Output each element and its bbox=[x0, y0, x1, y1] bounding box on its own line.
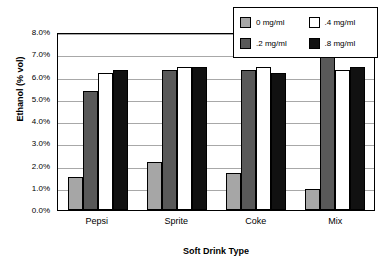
y-tick-label: 3.0% bbox=[6, 140, 50, 148]
legend-item[interactable]: 0 mg/ml bbox=[240, 13, 303, 31]
plot-area bbox=[57, 33, 375, 211]
x-tick-label: Pepsi bbox=[57, 216, 137, 226]
y-tick-label: 0.0% bbox=[6, 207, 50, 215]
legend-item[interactable]: .2 mg/ml bbox=[240, 34, 303, 52]
bar[interactable] bbox=[147, 162, 162, 210]
bar[interactable] bbox=[256, 67, 271, 211]
bar[interactable] bbox=[305, 189, 320, 210]
legend-swatch-icon bbox=[240, 17, 251, 28]
x-tick-label: Coke bbox=[216, 216, 296, 226]
bar[interactable] bbox=[226, 173, 241, 210]
x-axis-title: Soft Drink Type bbox=[57, 246, 375, 256]
bar[interactable] bbox=[83, 91, 98, 210]
legend-swatch-icon bbox=[309, 38, 320, 49]
bar-group bbox=[137, 34, 216, 210]
y-tick-label: 4.0% bbox=[6, 118, 50, 126]
y-tick-label: 1.0% bbox=[6, 185, 50, 193]
bar[interactable] bbox=[98, 73, 113, 210]
x-tick-label: Mix bbox=[296, 216, 376, 226]
bar[interactable] bbox=[241, 70, 256, 210]
bar[interactable] bbox=[68, 177, 83, 210]
bar-group bbox=[295, 34, 374, 210]
bar[interactable] bbox=[350, 67, 365, 211]
bar[interactable] bbox=[320, 54, 335, 210]
legend-item[interactable]: .4 mg/ml bbox=[309, 13, 372, 31]
bar[interactable] bbox=[192, 67, 207, 211]
bar-group bbox=[58, 34, 137, 210]
y-tick-label: 6.0% bbox=[6, 74, 50, 82]
y-tick-label: 8.0% bbox=[6, 29, 50, 37]
legend-swatch-icon bbox=[240, 38, 251, 49]
legend-item[interactable]: .8 mg/ml bbox=[309, 34, 372, 52]
bar[interactable] bbox=[271, 73, 286, 210]
legend-label: .2 mg/ml bbox=[256, 39, 287, 48]
bar-group bbox=[216, 34, 295, 210]
chart-legend: 0 mg/ml.4 mg/ml.2 mg/ml.8 mg/ml bbox=[233, 7, 378, 58]
legend-label: 0 mg/ml bbox=[256, 18, 284, 27]
y-tick-label: 2.0% bbox=[6, 163, 50, 171]
y-axis-title: Ethanol (% vol) bbox=[15, 24, 25, 154]
y-tick-label: 7.0% bbox=[6, 51, 50, 59]
bar[interactable] bbox=[113, 70, 128, 210]
bar-groups bbox=[58, 34, 374, 210]
legend-label: .4 mg/ml bbox=[325, 18, 356, 27]
bar[interactable] bbox=[335, 70, 350, 210]
bar-chart: Ethanol (% vol) 8.0%7.0%6.0%5.0%4.0%3.0%… bbox=[0, 0, 387, 269]
x-axis-ticks: PepsiSpriteCokeMix bbox=[57, 216, 375, 226]
legend-swatch-icon bbox=[309, 17, 320, 28]
bar[interactable] bbox=[177, 67, 192, 211]
bar[interactable] bbox=[162, 70, 177, 210]
legend-label: .8 mg/ml bbox=[325, 39, 356, 48]
y-tick-label: 5.0% bbox=[6, 96, 50, 104]
x-tick-label: Sprite bbox=[137, 216, 217, 226]
